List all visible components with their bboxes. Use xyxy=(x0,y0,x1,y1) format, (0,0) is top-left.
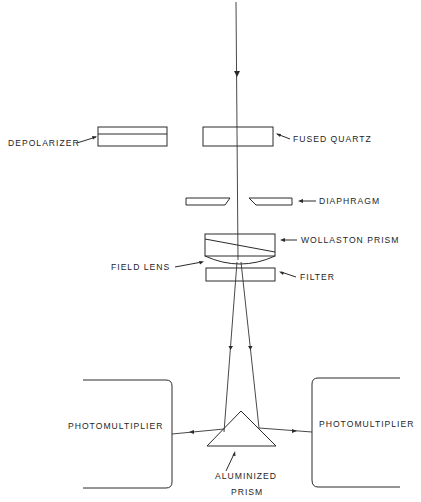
filter: FILTER xyxy=(206,268,335,282)
diaphragm-leader-arrow xyxy=(298,199,303,203)
aluminized-prism-label-line1: ALUMINIZED xyxy=(215,471,277,481)
photomultiplier-right-body xyxy=(312,378,400,487)
diaphragm-left-blade xyxy=(186,198,230,205)
fused-quartz-label: FUSED QUARTZ xyxy=(293,134,372,144)
aluminized-prism-label-line2: PRISM xyxy=(231,487,263,497)
fused-quartz-body xyxy=(203,127,273,146)
wollaston-prism-leader-arrow xyxy=(280,238,285,242)
photomultiplier-left-label: PHOTOMULTIPLIER xyxy=(68,421,163,431)
incident-beam xyxy=(236,2,238,260)
beam-to-right-pmt-arrow xyxy=(292,429,297,433)
beam-to-left-pmt-arrow xyxy=(189,430,194,434)
photomultiplier-right: PHOTOMULTIPLIER xyxy=(312,378,414,487)
depolarizer-leader-arrow xyxy=(92,136,97,140)
depolarizer-label: DEPOLARIZER xyxy=(8,138,80,148)
wollaston-prism-label: WOLLASTON PRISM xyxy=(301,235,399,245)
photomultiplier-right-label: PHOTOMULTIPLIER xyxy=(319,419,414,429)
wollaston-prism: WOLLASTON PRISM xyxy=(205,234,399,256)
depolarizer-body xyxy=(98,127,167,146)
field-lens-leader xyxy=(175,262,202,267)
diaphragm-right-blade xyxy=(249,198,292,205)
beam-right xyxy=(241,262,259,428)
aluminized-prism-leader-arrow xyxy=(233,451,236,456)
field-lens: FIELD LENS xyxy=(111,256,275,272)
fused-quartz-leader-arrow xyxy=(276,134,281,138)
beam-right-arrow xyxy=(248,346,253,350)
photomultiplier-left: PHOTOMULTIPLIER xyxy=(68,380,172,488)
filter-body xyxy=(206,268,275,281)
fused-quartz: FUSED QUARTZ xyxy=(203,127,372,146)
wollaston-prism-interface xyxy=(205,239,275,252)
field-lens-leader-arrow xyxy=(199,261,204,265)
aluminized-prism-leader xyxy=(226,454,234,471)
diaphragm: DIAPHRAGM xyxy=(186,196,380,206)
diaphragm-label: DIAPHRAGM xyxy=(319,196,380,206)
depolarizer: DEPOLARIZER xyxy=(8,127,167,148)
beam-to-right-pmt xyxy=(259,428,312,432)
photomultiplier-left-body xyxy=(83,380,172,488)
beam-arrow-down xyxy=(234,71,240,77)
aluminized-prism: ALUMINIZED PRISM xyxy=(207,411,277,497)
filter-label: FILTER xyxy=(300,272,335,282)
beam-left-arrow xyxy=(229,346,234,350)
field-lens-label: FIELD LENS xyxy=(111,262,170,272)
filter-leader-arrow xyxy=(279,272,284,276)
field-lens-body xyxy=(205,256,275,264)
optical-diagram: DEPOLARIZER FUSED QUARTZ DIAPHRAGM WOLLA… xyxy=(0,0,421,502)
beam-to-left-pmt xyxy=(172,429,224,434)
